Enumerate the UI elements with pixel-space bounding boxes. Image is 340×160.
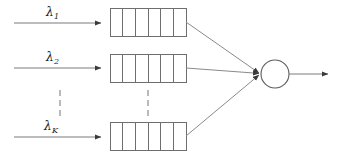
ellipsis-arrivals-icon <box>59 90 60 116</box>
feed-line-2 <box>186 68 259 73</box>
ellipsis-queues-icon <box>147 90 148 116</box>
arrival-rate-label-2: λ2 <box>46 51 59 63</box>
arrival-rate-label-1: λ1 <box>46 6 59 18</box>
lambda-symbol-2: λ <box>46 50 54 64</box>
lambda-subscript-1: 1 <box>54 12 59 21</box>
feed-lines-group <box>186 22 259 136</box>
diagram-canvas <box>0 0 340 160</box>
lambda-symbol-1: λ <box>46 5 54 19</box>
feed-line-1 <box>186 22 259 73</box>
arrival-rate-label-k: λK <box>44 120 58 132</box>
queue-box-2 <box>110 54 186 82</box>
lambda-symbol-k: λ <box>44 119 52 133</box>
lambda-subscript-2: 2 <box>54 57 59 66</box>
server-circle <box>261 60 289 88</box>
queue-box-1 <box>110 8 186 36</box>
queueing-diagram-figure: λ1 λ2 λK <box>0 0 340 160</box>
queue-box-k <box>110 122 186 150</box>
feed-line-k <box>186 75 259 136</box>
lambda-subscript-k: K <box>52 126 58 135</box>
